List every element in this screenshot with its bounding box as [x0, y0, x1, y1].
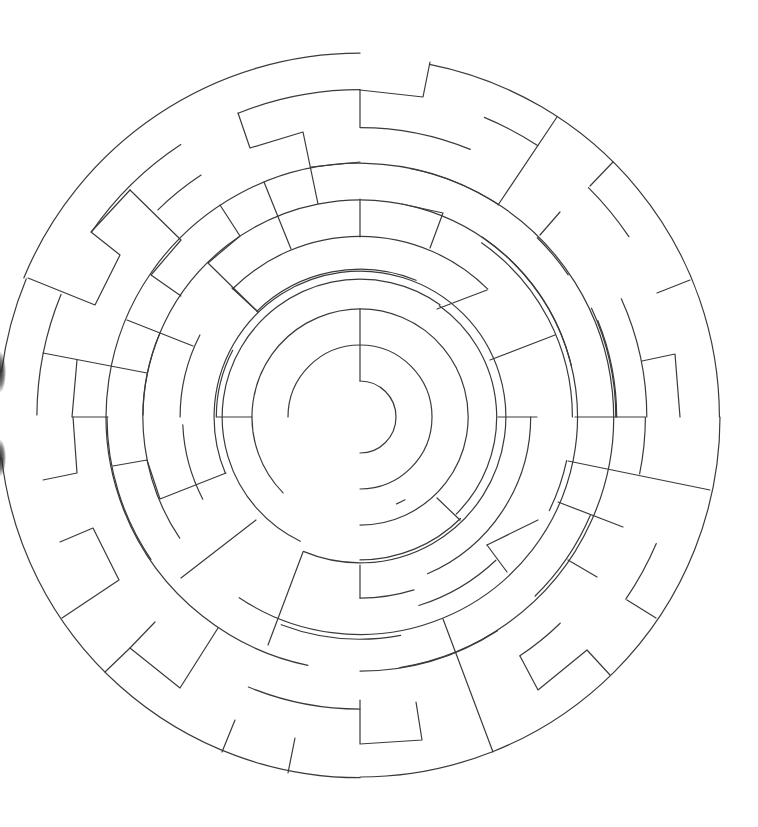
maze-wall-arc	[419, 560, 496, 605]
maze-wall-arc	[248, 687, 360, 709]
maze-wall-arc	[588, 188, 629, 237]
maze-wall-segment	[288, 738, 295, 773]
maze-wall-arc	[360, 128, 470, 150]
maze-wall-segment	[72, 360, 108, 417]
maze-wall-segment	[437, 498, 460, 520]
maze-wall-segment	[443, 619, 493, 752]
maze-wall-arc	[621, 299, 647, 417]
maze-wall-segment	[590, 162, 613, 186]
maze-wall-segment	[568, 461, 710, 490]
maze-wall-segment	[181, 520, 256, 578]
maze-wall-arc	[626, 544, 657, 600]
maze-wall-arc	[397, 500, 405, 504]
maze-outer-wall	[360, 417, 720, 777]
maze-wall-segment	[28, 190, 130, 305]
maze-wall-arc	[158, 175, 201, 210]
maze-wall-segment	[568, 560, 597, 577]
maze-wall-segment	[487, 545, 507, 572]
maze-wall-arc	[281, 625, 400, 639]
maze-wall-arc	[484, 117, 537, 145]
maze-wall-segment	[130, 622, 218, 688]
maze-wall-segment	[627, 600, 656, 618]
maze-wall-segment	[402, 204, 443, 248]
maze-wall-segment	[264, 182, 291, 249]
maze-wall-segment	[43, 417, 77, 480]
maze-wall-segment	[360, 62, 430, 97]
maze-wall-segment	[490, 335, 555, 360]
maze-wall-segment	[208, 205, 258, 312]
maze-wall-segment	[268, 552, 303, 645]
maze-wall-arc	[549, 461, 566, 511]
maze-wall-segment	[222, 720, 235, 752]
maze-wall-arc	[360, 381, 396, 453]
maze-wall-arc	[180, 335, 200, 417]
maze-wall-arc	[592, 308, 616, 417]
maze-wall-arc	[143, 333, 160, 415]
maze-outer-wall	[2, 458, 360, 777]
maze-wall-arc	[482, 237, 571, 366]
maze-wall-arc	[640, 417, 646, 474]
maze-wall-segment	[43, 353, 147, 373]
maze-wall-arc	[537, 238, 568, 275]
maze-wall-arc	[183, 425, 203, 499]
maze-wall-arc	[238, 90, 360, 114]
maze-wall-segment	[437, 290, 487, 309]
maze-wall-arc	[360, 631, 498, 671]
maze-wall-segment	[642, 354, 680, 417]
maze-wall-segment	[487, 520, 538, 545]
maze-wall-arc	[222, 279, 440, 541]
maze-wall-arc	[216, 350, 232, 417]
maze-wall-segment	[360, 700, 422, 744]
maze-wall-arc	[535, 516, 590, 597]
maze-wall-segment	[540, 212, 560, 235]
maze-wall-segment	[113, 460, 226, 499]
maze-wall-segment	[105, 648, 130, 672]
maze-wall-arc	[428, 417, 531, 574]
maze-wall-arc	[410, 169, 498, 205]
maze-wall-segment	[60, 528, 119, 618]
maze-wall-arc	[360, 590, 414, 598]
maze-outer-wall	[2, 279, 27, 372]
circular-maze	[0, 0, 758, 827]
maze-wall-segment	[238, 113, 318, 204]
maze-wall-segment	[657, 280, 690, 293]
maze-wall-segment	[130, 190, 181, 296]
maze-wall-arc	[520, 623, 560, 656]
maze-wall-arc	[233, 236, 488, 289]
maze-walls	[2, 53, 720, 778]
maze-wall-segment	[498, 117, 557, 205]
maze-wall-segment	[520, 650, 610, 690]
